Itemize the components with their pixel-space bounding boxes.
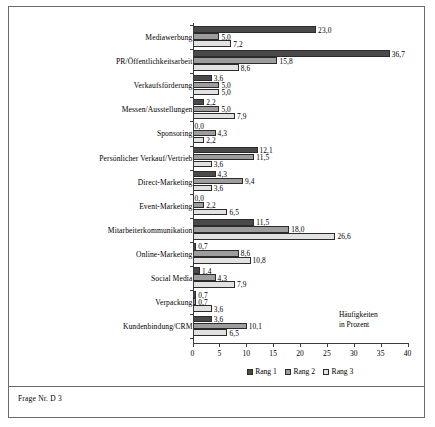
bar-line: 2,2 [193,137,427,143]
bar-value-label: 7,2 [233,39,243,48]
legend-swatch-icon [323,369,329,375]
bar-line: 5,0 [193,89,427,95]
bar-line: 5,0 [193,33,427,39]
bar-line: 11,5 [193,154,427,160]
x-axis-tick-label: 30 [350,349,358,358]
x-axis-tick [408,343,409,347]
bar-group: 0,02,26,5 [193,195,427,216]
category-label: Online-Marketing [136,249,192,258]
x-axis-tick [273,343,274,347]
category-row: Direct-Marketing4,39,43,6 [9,170,426,194]
y-axis-tick [190,170,193,171]
bar-line: 18,0 [193,226,427,232]
bar-2 [193,57,278,63]
category-row: Persönlicher Verkauf/Vertrieb12,111,53,6 [9,145,426,169]
bar-2 [193,33,220,39]
category-label: Kundenbindung/CRM [123,322,193,331]
bar-3 [193,40,232,46]
category-label: Event-Marketing [139,201,192,210]
bar-3 [193,137,205,143]
category-row: Online-Marketing0,78,610,8 [9,242,426,266]
x-axis-tick [327,343,328,347]
category-label: Mediawerbung [145,33,192,42]
chart-legend: Rang 1Rang 2Rang 3 [193,367,408,376]
y-axis-tick [190,314,193,315]
bar-group: 3,65,05,0 [193,75,427,96]
category-row: Mediawerbung23,05,07,2 [9,25,426,49]
bar-1 [193,171,216,177]
bar-value-label: 26,6 [337,232,350,241]
bar-2 [193,82,220,88]
figure-source-note: Frage Nr. D 3 [18,394,62,403]
category-row: Sponsoring0,04,32,2 [9,121,426,145]
x-axis-tick [354,343,355,347]
y-axis-tick [190,194,193,195]
bar-3 [193,64,239,70]
x-axis-tick [246,343,247,347]
bar-line: 7,9 [193,113,427,119]
bar-line: 9,4 [193,178,427,184]
bar-value-label: 5,0 [221,87,231,96]
x-axis-tick-label: 5 [217,349,221,358]
bar-line: 2,2 [193,202,427,208]
bar-line: 0,7 [193,243,427,249]
bar-line: 12,1 [193,147,427,153]
bar-line: 7,2 [193,40,427,46]
category-label: Direct-Marketing [138,177,193,186]
y-axis-tick [190,146,193,147]
plot-area: Mediawerbung23,05,07,2PR/Öffentlichkeits… [9,7,426,385]
bar-group: 3,610,16,5 [193,316,427,337]
category-label: Persönlicher Verkauf/Vertrieb [99,153,192,162]
chart-figure: Mediawerbung23,05,07,2PR/Öffentlichkeits… [8,6,425,418]
bar-group: 1,44,37,9 [193,267,427,288]
bar-2 [193,226,290,232]
category-row: Verkaufsförderung3,65,05,0 [9,73,426,97]
x-axis-tick-label: 10 [242,349,250,358]
bar-1 [193,75,212,81]
category-label: Sponsoring [157,129,193,138]
bar-group: 12,111,53,6 [193,147,427,168]
bar-2 [193,202,205,208]
y-axis-tick [190,49,193,50]
bar-1 [193,316,212,322]
x-axis: 0510152025303540 [193,343,408,344]
category-label: Verkaufsförderung [134,81,193,90]
bar-1 [193,26,317,32]
bar-value-label: 3,6 [214,304,224,313]
bar-line: 6,5 [193,329,427,335]
category-label: Verpackung [155,298,192,307]
bar-3 [193,185,212,191]
bar-line: 4,3 [193,274,427,280]
bar-line: 0,7 [193,291,427,297]
legend-item-2[interactable]: Rang 2 [285,367,315,376]
bar-line: 3,6 [193,161,427,167]
bar-line: 15,8 [193,57,427,63]
bar-2 [193,106,220,112]
legend-swatch-icon [247,369,253,375]
legend-label: Rang 3 [332,367,354,376]
bar-value-label: 6,5 [229,208,239,217]
category-label: Mitarbeiterkommunikation [108,225,193,234]
category-row: Messen/Ausstellungen2,25,07,9 [9,97,426,121]
bar-line: 0,0 [193,195,427,201]
x-axis-title: Häufigkeiten in Prozent [339,310,378,329]
bar-line: 4,3 [193,171,427,177]
bar-3 [193,233,336,239]
bar-line: 26,6 [193,233,427,239]
y-axis-tick [190,97,193,98]
legend-item-1[interactable]: Rang 1 [247,367,277,376]
bar-1 [193,267,201,273]
y-axis-tick [190,73,193,74]
legend-item-3[interactable]: Rang 3 [323,367,353,376]
bar-line: 8,6 [193,64,427,70]
x-axis-tick [219,343,220,347]
legend-label: Rang 2 [293,367,315,376]
x-axis-tick [193,343,194,347]
category-label: Social Media [151,273,192,282]
x-axis-tick [381,343,382,347]
bar-line: 36,7 [193,50,427,56]
bar-line: 10,1 [193,323,427,329]
category-row: Mitarbeiterkommunikation11,518,026,6 [9,218,426,242]
category-row: Social Media1,44,37,9 [9,266,426,290]
bar-group: 2,25,07,9 [193,99,427,120]
